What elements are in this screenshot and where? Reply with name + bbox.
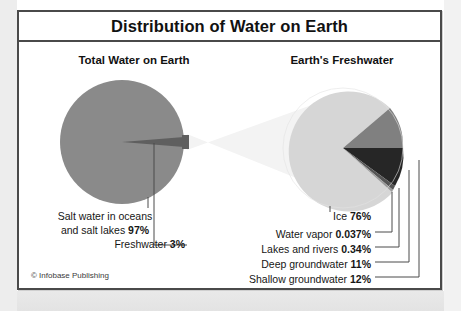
figure-title-bar: Distribution of Water on Earth	[19, 12, 440, 42]
label-ice: Ice 76%	[199, 210, 371, 224]
label-freshwater-text: Freshwater	[114, 238, 169, 250]
page-shade-right	[444, 0, 461, 311]
label-shallow-groundwater: Shallow groundwater 12%	[169, 273, 371, 287]
label-water-vapor-text: Water vapor	[276, 228, 336, 240]
value-ice: 76%	[350, 210, 371, 222]
label-salt-water: Salt water in oceans and salt lakes 97%	[25, 210, 185, 237]
label-deep-groundwater-text: Deep groundwater	[261, 258, 350, 270]
label-ice-text: Ice	[333, 210, 350, 222]
label-salt-water-line1: Salt water in oceans	[58, 210, 153, 222]
label-lakes-and-rivers: Lakes and rivers 0.34%	[169, 243, 371, 257]
value-water-vapor: 0.037%	[335, 228, 371, 240]
figure-title: Distribution of Water on Earth	[111, 17, 348, 36]
value-deep-groundwater: 11%	[351, 258, 371, 270]
figure-frame: Distribution of Water on Earth Total Wat…	[17, 10, 442, 290]
label-lakes-and-rivers-text: Lakes and rivers	[261, 243, 341, 255]
value-shallow-groundwater: 12%	[350, 273, 371, 285]
label-freshwater: Freshwater 3%	[25, 238, 185, 252]
label-deep-groundwater: Deep groundwater 11%	[169, 258, 371, 272]
figure-body: Total Water on Earth Earth's Freshwater	[19, 42, 440, 290]
publisher-credit: © Infobase Publishing	[31, 271, 109, 280]
value-lakes-and-rivers: 0.34%	[341, 243, 371, 255]
freshwater-wedge-tab	[182, 135, 189, 149]
value-salt-water: 97%	[128, 224, 149, 236]
page-shade-left	[0, 0, 17, 311]
label-shallow-groundwater-text: Shallow groundwater	[249, 273, 350, 285]
label-salt-water-line2: and salt lakes	[61, 224, 128, 236]
label-water-vapor: Water vapor 0.037%	[169, 228, 371, 242]
